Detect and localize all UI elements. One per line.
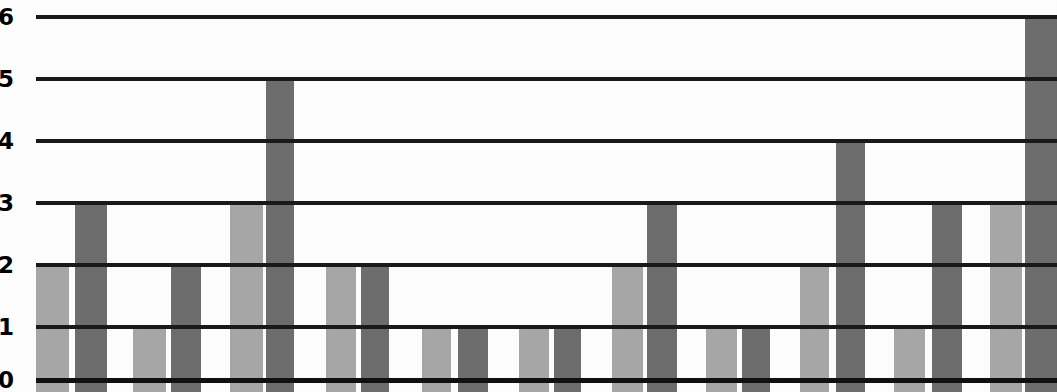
axis-baseline	[36, 378, 1057, 383]
y-axis-tick-label-6: 6	[0, 6, 14, 29]
bar-2[interactable]	[75, 203, 107, 392]
gridline-6	[36, 15, 1057, 19]
bar-14[interactable]	[647, 203, 677, 392]
gridline-5	[36, 77, 1057, 81]
bar-6[interactable]	[266, 79, 294, 392]
y-axis-tick-label-1: 1	[0, 316, 14, 339]
plot-area	[36, 0, 1057, 392]
gridline-1	[36, 325, 1057, 329]
gridline-2	[36, 263, 1057, 267]
y-axis-tick-label-3: 3	[0, 192, 14, 215]
bar-21[interactable]	[990, 203, 1022, 392]
bar-5[interactable]	[230, 203, 263, 392]
bar-chart: 6543210	[0, 0, 1057, 392]
gridline-4	[36, 139, 1057, 143]
y-axis-tick-label-2: 2	[0, 254, 14, 277]
y-axis-tick-label-0: 0	[0, 369, 14, 392]
y-axis-tick-label-5: 5	[0, 68, 14, 91]
gridline-3	[36, 201, 1057, 205]
y-axis-tick-label-4: 4	[0, 130, 14, 153]
bar-20[interactable]	[932, 203, 962, 392]
y-axis: 6543210	[0, 0, 36, 392]
